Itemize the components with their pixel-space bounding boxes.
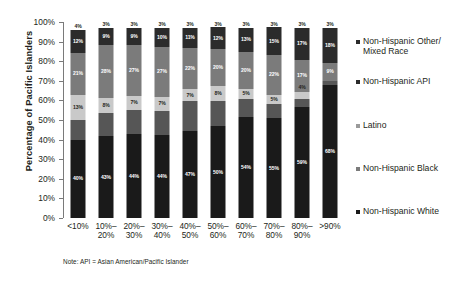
bar-segment-label: 13% <box>73 105 83 110</box>
bar-segment-label: 44% <box>129 174 139 179</box>
x-axis-tick-label-line: >90% <box>316 222 344 231</box>
bar-segment: 17% <box>295 28 310 60</box>
bar-segment-label: 17% <box>297 73 307 78</box>
bar-segment-label: 22% <box>185 66 195 71</box>
bar-column: 3%17%17%4%59% <box>288 22 316 218</box>
bar-segment <box>211 101 226 127</box>
y-axis-tick <box>59 61 63 62</box>
y-axis-tick-label: 70% <box>19 77 55 85</box>
bar-segment: 9% <box>127 28 142 45</box>
bar-segment-label: 40% <box>73 176 83 181</box>
y-axis-tick <box>59 120 63 121</box>
y-axis-tick <box>59 42 63 43</box>
bar-column: 3%9%28%8%43% <box>92 22 120 218</box>
bar-stack: 3%13%20%5%54% <box>239 22 254 218</box>
bar-segment-label: 15% <box>269 39 279 44</box>
bar-segment-label: 3% <box>102 22 109 27</box>
bar-segment-label: 20% <box>213 65 223 70</box>
bar-segment-label: 50% <box>213 170 223 175</box>
bar-segment: 20% <box>211 49 226 86</box>
bar-column: 4%12%21%13%40% <box>64 22 92 218</box>
bar-segment-label: 7% <box>158 101 165 106</box>
x-axis-tick-label: 50%–60% <box>204 222 232 241</box>
y-axis-tick <box>59 198 63 199</box>
legend-swatch <box>356 124 360 128</box>
bar-segment: 9% <box>99 28 114 45</box>
bar-column: 3%13%20%5%54% <box>232 22 260 218</box>
x-axis-tick-label: 70%–80% <box>260 222 288 241</box>
legend-label: Non-Hispanic Black <box>363 163 438 173</box>
bar-segment-label: 22% <box>269 72 279 77</box>
x-axis-tick-label: 20%–30% <box>120 222 148 241</box>
bar-segment: 40% <box>71 140 86 218</box>
stacked-bar-chart: Percentage of Pacific Islanders 0%10%20%… <box>0 0 467 301</box>
bar-segment-label: 3% <box>270 22 277 27</box>
legend-label: Non-Hispanic Other/Mixed Race <box>363 36 441 57</box>
bar-segment: 9% <box>323 63 338 81</box>
bar-segment-label: 21% <box>73 71 83 76</box>
bar-segment <box>183 101 198 131</box>
legend-swatch <box>356 80 360 84</box>
bar-segment: 68% <box>323 85 338 218</box>
bar-segment-label: 3% <box>326 22 333 27</box>
bar-segment-label: 9% <box>130 34 137 39</box>
bar-segment: 8% <box>99 98 114 113</box>
bar-segment-label: 3% <box>130 22 137 27</box>
bar-segment-label: 11% <box>185 35 195 40</box>
legend-item: Latino <box>356 120 386 130</box>
bar-segment-label: 7% <box>130 100 137 105</box>
bar-segment-label: 13% <box>241 37 251 42</box>
bar-segment-label: 68% <box>325 149 335 154</box>
y-axis-tick-label: 100% <box>19 18 55 26</box>
bar-segment: 54% <box>239 117 254 218</box>
bar-segment-label: 12% <box>73 39 83 44</box>
legend-swatch <box>356 40 360 44</box>
x-axis-tick-label-line: 20% <box>92 231 120 240</box>
bar-segment: 13% <box>71 95 86 120</box>
legend-label: Latino <box>363 120 386 130</box>
y-axis-tick <box>59 218 63 219</box>
bar-segment-label: 55% <box>269 166 279 171</box>
x-axis-tick-label: 80%–90% <box>288 222 316 241</box>
bar-segment-label: 3% <box>186 22 193 27</box>
bar-segment: 59% <box>295 107 310 218</box>
y-axis-tick-label: 20% <box>19 175 55 183</box>
bar-segment-label: 8% <box>214 91 221 96</box>
x-axis-tick-label-line: 80% <box>260 231 288 240</box>
bar-segment: 5% <box>267 95 282 104</box>
bar-segment-label: 27% <box>157 69 167 74</box>
bar-group: 4%12%21%13%40%3%9%28%8%43%3%9%27%7%44%3%… <box>64 22 344 218</box>
legend-swatch <box>356 210 360 214</box>
bar-stack: 3%15%22%5%55% <box>267 22 282 218</box>
y-axis-tick-label: 90% <box>19 38 55 46</box>
y-axis-tick-label: 80% <box>19 57 55 65</box>
bar-segment-label: 7% <box>186 93 193 98</box>
bar-segment-label: 9% <box>326 69 333 74</box>
legend-item: Non-Hispanic Other/Mixed Race <box>356 36 441 57</box>
bar-segment-label: 59% <box>297 160 307 165</box>
x-axis-tick-label: 40%–50% <box>176 222 204 241</box>
bar-segment: 20% <box>239 52 254 89</box>
bar-segment: 22% <box>267 55 282 95</box>
bar-stack: 3%9%28%8%43% <box>99 22 114 218</box>
bar-segment-label: 4% <box>298 85 305 90</box>
bar-segment: 21% <box>71 53 86 94</box>
y-axis-tick-label: 60% <box>19 96 55 104</box>
x-axis-tick-label: 30%–40% <box>148 222 176 241</box>
bar-stack: 3%17%17%4%59% <box>295 22 310 218</box>
bar-segment-label: 43% <box>101 175 111 180</box>
bar-segment-label: 8% <box>102 103 109 108</box>
y-axis-tick-label: 30% <box>19 155 55 163</box>
bar-segment <box>99 113 114 136</box>
bar-segment-label: 54% <box>241 165 251 170</box>
bar-segment <box>267 104 282 119</box>
bar-segment: 8% <box>211 86 226 101</box>
y-axis-tick <box>59 22 63 23</box>
x-axis-tick-label: 10%–20% <box>92 222 120 241</box>
bar-segment: 43% <box>99 136 114 218</box>
bar-stack: 4%12%21%13%40% <box>71 22 86 218</box>
bar-segment: 10% <box>155 28 170 47</box>
bar-segment <box>71 120 86 140</box>
x-axis-tick-label-line: <10% <box>64 222 92 231</box>
bar-segment: 11% <box>183 28 198 48</box>
